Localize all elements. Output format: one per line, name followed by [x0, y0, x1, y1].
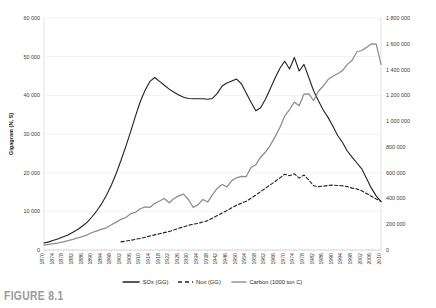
svg-text:1922: 1922 [164, 253, 170, 265]
svg-text:1886: 1886 [78, 253, 84, 265]
svg-text:2006: 2006 [366, 253, 372, 265]
svg-text:1994: 1994 [337, 253, 343, 265]
chart-legend: SOx (GG)Nox (GG)Carbon (1000 ton C) [123, 279, 303, 285]
svg-text:800 000: 800 000 [386, 144, 406, 150]
svg-text:0: 0 [386, 247, 389, 253]
left-axis-title: Gigagram (N, S) [8, 113, 14, 155]
svg-text:60 000: 60 000 [24, 15, 41, 21]
svg-text:30 000: 30 000 [24, 131, 41, 137]
svg-text:1946: 1946 [222, 253, 228, 265]
svg-text:1902: 1902 [116, 253, 122, 265]
svg-text:1966: 1966 [270, 253, 276, 265]
svg-text:400 000: 400 000 [386, 195, 406, 201]
svg-text:1870: 1870 [39, 253, 45, 265]
x-axis-ticks: 1870187418781882188618901894189819021906… [39, 250, 382, 265]
right-axis-ticks: 0200 000400 000600 000800 0001 000 0001 … [386, 15, 410, 253]
svg-text:50 000: 50 000 [24, 54, 41, 60]
svg-text:1938: 1938 [203, 253, 209, 265]
svg-text:1 200 000: 1 200 000 [386, 92, 410, 98]
svg-text:1950: 1950 [232, 253, 238, 265]
svg-text:200 000: 200 000 [386, 221, 406, 227]
svg-text:Carbon (1000 ton C): Carbon (1000 ton C) [249, 279, 302, 285]
svg-text:1914: 1914 [145, 253, 151, 265]
svg-text:0: 0 [37, 247, 40, 253]
svg-text:1918: 1918 [155, 253, 161, 265]
figure-caption: FIGURE 8.1 [4, 289, 64, 303]
series-lines [44, 44, 381, 245]
svg-text:1982: 1982 [309, 253, 315, 265]
svg-text:1990: 1990 [328, 253, 334, 265]
svg-text:1894: 1894 [97, 253, 103, 265]
svg-text:1 800 000: 1 800 000 [386, 15, 410, 21]
svg-text:1874: 1874 [49, 253, 55, 265]
gridlines [44, 18, 381, 250]
svg-text:2002: 2002 [357, 253, 363, 265]
svg-text:1978: 1978 [299, 253, 305, 265]
svg-text:1898: 1898 [106, 253, 112, 265]
svg-text:1958: 1958 [251, 253, 257, 265]
svg-text:Nox (GG): Nox (GG) [196, 279, 221, 285]
figure-container: 010 00020 00030 00040 00050 00060 000 02… [0, 0, 436, 308]
svg-text:1 000 000: 1 000 000 [386, 118, 410, 124]
svg-text:1942: 1942 [212, 253, 218, 265]
svg-text:1970: 1970 [280, 253, 286, 265]
svg-text:10 000: 10 000 [24, 208, 41, 214]
svg-text:1 400 000: 1 400 000 [386, 67, 410, 73]
svg-text:1986: 1986 [318, 253, 324, 265]
svg-text:1930: 1930 [183, 253, 189, 265]
svg-text:40 000: 40 000 [24, 92, 41, 98]
svg-text:1910: 1910 [135, 253, 141, 265]
chart-plot: 010 00020 00030 00040 00050 00060 000 02… [0, 0, 436, 296]
svg-text:1974: 1974 [289, 253, 295, 265]
svg-text:1998: 1998 [347, 253, 353, 265]
svg-text:1934: 1934 [193, 253, 199, 265]
svg-text:1926: 1926 [174, 253, 180, 265]
svg-text:600 000: 600 000 [386, 170, 406, 176]
svg-text:1 600 000: 1 600 000 [386, 41, 410, 47]
svg-text:1878: 1878 [58, 253, 64, 265]
svg-text:SOx (GG): SOx (GG) [143, 279, 169, 285]
svg-text:1882: 1882 [68, 253, 74, 265]
svg-text:1954: 1954 [241, 253, 247, 265]
svg-text:1906: 1906 [126, 253, 132, 265]
svg-text:1962: 1962 [260, 253, 266, 265]
svg-text:Gigagram (N, S): Gigagram (N, S) [8, 113, 14, 155]
svg-text:1890: 1890 [87, 253, 93, 265]
left-axis-ticks: 010 00020 00030 00040 00050 00060 000 [24, 15, 41, 253]
chart-svg: 010 00020 00030 00040 00050 00060 000 02… [0, 0, 436, 296]
svg-text:2010: 2010 [376, 253, 382, 265]
svg-text:20 000: 20 000 [24, 170, 41, 176]
